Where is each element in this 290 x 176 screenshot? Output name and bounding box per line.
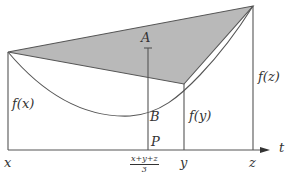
label-z: z <box>249 156 256 169</box>
label-mean: x+y+z 3 <box>130 155 159 174</box>
label-B: B <box>150 110 160 123</box>
diagram-canvas <box>0 0 290 176</box>
convexity-diagram: A B P f(x) f(y) f(z) x y z t x+y+z 3 <box>0 0 290 176</box>
label-A: A <box>141 31 150 44</box>
mean-numerator: x+y+z <box>130 155 159 165</box>
label-P: P <box>151 135 160 148</box>
label-fx: f(x) <box>12 97 34 110</box>
axis-arrow-icon <box>260 147 270 153</box>
label-t: t <box>279 141 284 154</box>
label-fz: f(z) <box>258 70 280 83</box>
label-y: y <box>180 156 187 169</box>
label-fy: f(y) <box>189 109 211 122</box>
label-x: x <box>4 156 11 169</box>
mean-denominator: 3 <box>130 165 159 174</box>
shaded-triangle <box>8 6 253 84</box>
